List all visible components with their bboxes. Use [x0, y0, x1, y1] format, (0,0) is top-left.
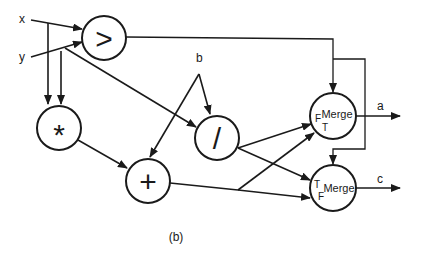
edge-y-to-gt [31, 42, 82, 57]
figure-caption: (b) [169, 230, 184, 244]
merge-c-port-f: F [318, 191, 324, 202]
edge-y-to-div [65, 48, 196, 127]
merge-c-label: Merge [323, 182, 354, 194]
node-greater-than: > [82, 16, 126, 60]
input-y-label: y [19, 50, 25, 64]
merge-a-port-f: F [315, 113, 321, 124]
edge-gt-to-merge-a [126, 37, 333, 92]
merge-a-label: Merge [321, 108, 352, 120]
node-merge-a: Merge F T [310, 93, 356, 139]
input-b-label: b [196, 51, 203, 65]
dataflow-diagram: x y b a c > * / + Merge [0, 0, 422, 260]
output-a-label: a [377, 99, 384, 113]
input-x-label: x [19, 12, 25, 26]
merge-a-port-t: T [322, 122, 328, 133]
merge-c-port-t: T [314, 179, 320, 190]
node-divide: / [195, 116, 239, 160]
edge-b-to-add [150, 74, 199, 157]
edge-b-to-div [199, 74, 210, 114]
edge-add-to-merge-a [238, 133, 314, 190]
edge-add-to-merge-c [238, 190, 310, 198]
node-merge-c: Merge T F [310, 165, 356, 211]
add-symbol: + [139, 165, 157, 198]
node-add: + [126, 159, 170, 203]
multiply-symbol: * [53, 118, 65, 151]
edge-add-out [170, 183, 238, 190]
greater-than-symbol: > [95, 22, 113, 55]
output-c-label: c [377, 172, 383, 186]
edge-mul-to-add [78, 140, 127, 168]
divide-symbol: / [213, 122, 222, 155]
edge-x-to-gt [31, 20, 82, 29]
node-multiply: * [37, 106, 81, 151]
